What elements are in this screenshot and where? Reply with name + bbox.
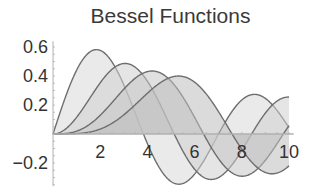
plot-area: 2468100.60.40.2−0.2 [0,0,319,195]
x-tick-label: 8 [237,142,247,162]
x-tick-label: 2 [95,142,105,162]
y-tick-label: 0.2 [23,95,48,115]
x-tick-label: 10 [279,142,299,162]
series-layer [53,50,289,185]
y-tick-label: 0.6 [23,37,48,57]
x-tick-label: 6 [190,142,200,162]
x-tick-label: 4 [142,142,152,162]
y-tick-label: −0.2 [12,153,48,173]
y-tick-label: 0.4 [23,66,48,86]
